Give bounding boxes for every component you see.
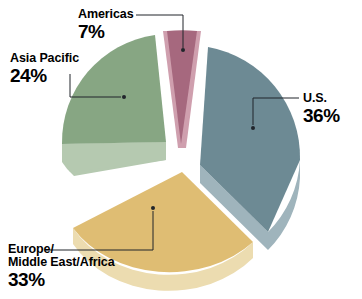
slice-label-asia-pacific: Asia Pacific 24% <box>10 52 79 85</box>
leader-dot-asia-pacific <box>122 95 126 99</box>
slice-label-americas: Americas 7% <box>78 8 134 41</box>
pie-slice-us-top <box>200 47 300 232</box>
slice-label-emea-name-line2: Middle East/Africa <box>8 256 115 269</box>
slice-label-americas-value: 7% <box>78 22 134 41</box>
leader-dot-emea <box>151 206 155 210</box>
slice-label-americas-name: Americas <box>78 8 134 21</box>
slice-label-asia-pacific-name: Asia Pacific <box>10 52 79 65</box>
slice-label-emea-value: 33% <box>8 270 115 289</box>
leader-dot-americas <box>181 48 185 52</box>
pie-chart-figure: Americas 7% Asia Pacific 24% U.S. 36% Eu… <box>0 0 362 299</box>
slice-label-asia-pacific-value: 24% <box>10 66 79 85</box>
slice-label-emea: Europe/ Middle East/Africa 33% <box>8 243 115 289</box>
slice-label-emea-name-line1: Europe/ <box>8 243 115 256</box>
slice-label-us-name: U.S. <box>303 92 340 105</box>
pie-slice-americas[interactable] <box>163 30 201 148</box>
slice-label-us: U.S. 36% <box>303 92 340 125</box>
leader-dot-us <box>251 126 255 130</box>
slice-label-us-value: 36% <box>303 106 340 125</box>
